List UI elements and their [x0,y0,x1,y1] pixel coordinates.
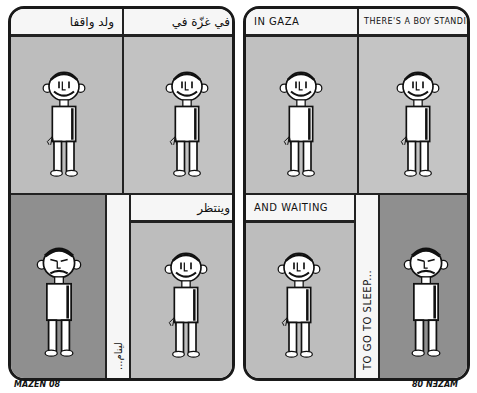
smiling-boy-icon [39,69,89,179]
panel-ar-2: في غزّة في [124,9,235,195]
panel-en-3: AND WAITING [246,195,354,378]
caption-ar-2: في غزّة في [124,9,235,37]
signature-left: MAZEN 08 [14,380,60,389]
caption-en-3: AND WAITING [246,195,354,223]
panel-ar-3 [11,195,105,378]
vertical-caption-ar: لينام... [113,342,124,370]
english-page: IN GAZA THERE'S A BOY STANDING AND WAITI… [243,6,470,381]
vertical-caption-en: TO GO TO SLEEP... [362,270,373,370]
sad-boy-icon [400,237,452,367]
smiling-boy-icon [162,69,212,179]
sad-boy-icon [33,237,85,367]
panel-en-1: IN GAZA [246,9,359,195]
panel-en-2: THERE'S A BOY STANDING [359,9,470,195]
panel-en-5 [380,195,470,378]
caption-en-1: IN GAZA [246,9,357,37]
caption-ar-1: ولد واقفا [11,9,122,37]
smiling-boy-icon [276,69,326,179]
vertical-caption-strip-en: TO GO TO SLEEP... [354,195,380,378]
smiling-boy-icon [161,245,211,365]
panel-ar-1: ولد واقفا [11,9,124,195]
smiling-boy-icon [393,69,443,179]
panel-ar-5: وينتظر [131,195,235,378]
vertical-caption-strip-ar: لينام... [105,195,131,378]
caption-en-2: THERE'S A BOY STANDING [359,9,470,37]
arabic-page: ولد واقفا في غزّة في لينام... وينتظر [8,6,235,381]
signature-right: 80 NƎZAM [412,380,458,389]
caption-ar-5: وينتظر [131,195,235,223]
smiling-boy-icon [274,245,324,365]
